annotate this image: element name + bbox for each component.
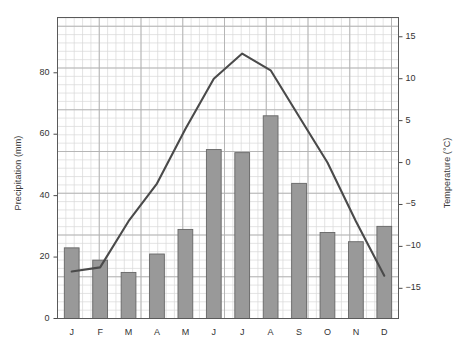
bar-m-4 [178,229,193,318]
temperature-line [72,54,385,276]
minor-gridlines [58,18,399,319]
y-right-tick-3: 0 [406,157,436,167]
bar-j-0 [64,248,79,319]
y-left-tick-40: 40 [24,190,50,200]
y-right-tick-5: 10 [406,73,436,83]
y-right-tick-1: −10 [406,240,436,250]
x-tick-s-8: S [287,327,311,337]
y-left-tick-80: 80 [24,67,50,77]
right-axis-ticks [399,37,403,289]
bar-m-2 [121,272,136,318]
bar-j-5 [206,150,221,319]
plot-area [0,0,466,355]
bar-j-6 [235,153,250,319]
x-tick-m-2: M [117,327,141,337]
y-left-tick-60: 60 [24,128,50,138]
x-tick-a-3: A [145,327,169,337]
x-tick-j-0: J [60,327,84,337]
bar-a-7 [263,116,278,319]
x-tick-o-9: O [315,327,339,337]
y-left-tick-20: 20 [24,251,50,261]
x-tick-j-5: J [202,327,226,337]
climograph-chart: Precipitation (mm) Temperature (°C) 0204… [0,0,466,355]
y-right-tick-0: −15 [406,282,436,292]
bar-s-8 [292,183,307,318]
y-left-tick-0: 0 [24,313,50,323]
precipitation-bars [64,116,391,319]
x-tick-n-10: N [344,327,368,337]
y-right-tick-4: 5 [406,115,436,125]
x-tick-a-7: A [259,327,283,337]
y-right-tick-2: −5 [406,198,436,208]
bar-n-10 [348,242,363,319]
y-right-tick-6: 15 [406,31,436,41]
x-tick-f-1: F [88,327,112,337]
bar-a-3 [150,254,165,319]
x-tick-j-6: J [230,327,254,337]
bar-d-11 [377,226,392,318]
x-tick-d-11: D [372,327,396,337]
left-axis-ticks [54,73,58,319]
x-tick-m-4: M [173,327,197,337]
bar-o-9 [320,233,335,319]
